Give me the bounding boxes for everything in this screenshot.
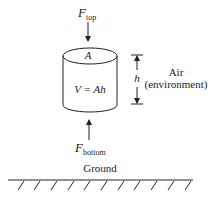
volume-label: V = Ah <box>74 83 106 95</box>
environment-label-line1: Air <box>169 66 184 78</box>
ground-label: Ground <box>83 162 117 174</box>
ground-hatching <box>8 180 193 190</box>
height-label: h <box>134 72 140 84</box>
environment-label-line2: (environment) <box>145 78 208 91</box>
area-label: A <box>84 49 92 61</box>
force-bottom-label: Fbottom <box>74 140 106 157</box>
buoyancy-diagram: Ftop A V = Ah h Air (environment) Fbotto… <box>0 0 211 201</box>
force-top-label: Ftop <box>77 5 96 22</box>
